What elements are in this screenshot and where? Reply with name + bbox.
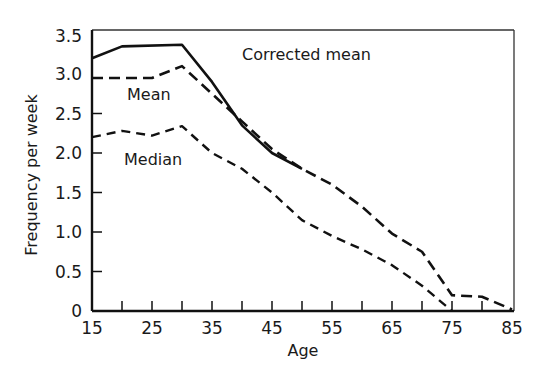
y-tick-label: 1.0 xyxy=(55,222,82,242)
y-tick-label: 1.5 xyxy=(55,183,82,203)
y-tick-label: 0.5 xyxy=(55,262,82,282)
plot-frame xyxy=(92,30,514,311)
x-tick-label: 75 xyxy=(441,318,463,338)
series-label-mean: Mean xyxy=(127,85,171,104)
series-label-median: Median xyxy=(124,150,182,169)
x-tick-label: 35 xyxy=(201,318,223,338)
x-tick-label: 45 xyxy=(261,318,283,338)
x-tick-label: 55 xyxy=(321,318,343,338)
x-axis-ticks: 1525354555657585 xyxy=(81,301,523,338)
series-label-corrected-mean: Corrected mean xyxy=(242,45,371,64)
line-chart: 00.51.01.52.02.53.03.5 1525354555657585 … xyxy=(0,0,533,376)
x-tick-label: 25 xyxy=(141,318,163,338)
y-tick-label: 3.0 xyxy=(55,64,82,84)
x-tick-label: 15 xyxy=(81,318,103,338)
y-axis-ticks: 00.51.01.52.02.53.03.5 xyxy=(55,26,102,321)
y-tick-label: 3.5 xyxy=(55,26,82,46)
x-tick-label: 65 xyxy=(381,318,403,338)
y-tick-label: 2.5 xyxy=(55,104,82,124)
x-tick-label: 85 xyxy=(501,318,523,338)
y-axis-label: Frequency per week xyxy=(22,94,41,256)
x-axis-label: Age xyxy=(288,341,319,360)
y-tick-label: 2.0 xyxy=(55,143,82,163)
